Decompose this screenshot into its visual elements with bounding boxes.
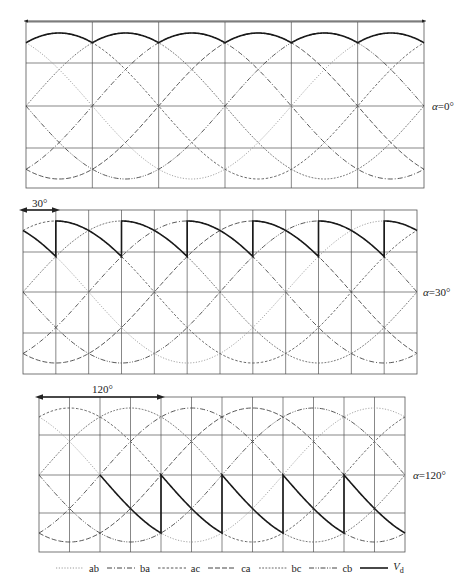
legend-item-ac: ac [158,563,200,574]
alpha-value: =30° [429,286,451,298]
legend-item-ca: ca [208,563,250,574]
alpha-value: =0° [438,100,454,112]
panel-alpha-30 [23,210,417,374]
legend: abbaaccabccbVd [56,561,404,575]
legend-label: ac [191,563,200,574]
legend-item-vd: Vd [360,561,403,575]
firing-angle-label: α=120° [413,469,446,481]
legend-line-ba-icon [107,565,135,571]
legend-item-ab: ab [56,563,99,574]
span-arrow-label: 30° [32,197,47,209]
legend-item-cb: cb [309,563,352,574]
legend-line-vd-icon [360,565,388,571]
legend-line-bc-icon [259,565,287,571]
legend-line-ac-icon [158,565,186,571]
legend-line-ab-icon [56,565,84,571]
legend-line-ca-icon [208,565,236,571]
legend-label: bc [292,563,302,574]
legend-item-bc: bc [259,563,302,574]
alpha-value: =120° [419,469,446,481]
legend-label: ba [140,563,150,574]
panel-alpha-0 [26,21,424,188]
vd-subscript: d [400,566,404,575]
legend-item-ba: ba [107,563,150,574]
span-arrow-label: 120° [92,383,113,395]
legend-label: cb [342,563,352,574]
rectifier-waveform-diagram [0,0,474,560]
legend-label: ab [89,563,99,574]
legend-label-vd: Vd [393,561,403,575]
legend-label: ca [241,563,250,574]
firing-angle-label: α=30° [423,286,450,298]
panel-alpha-120 [39,397,405,552]
legend-line-cb-icon [309,565,337,571]
firing-angle-label: α=0° [432,100,454,112]
